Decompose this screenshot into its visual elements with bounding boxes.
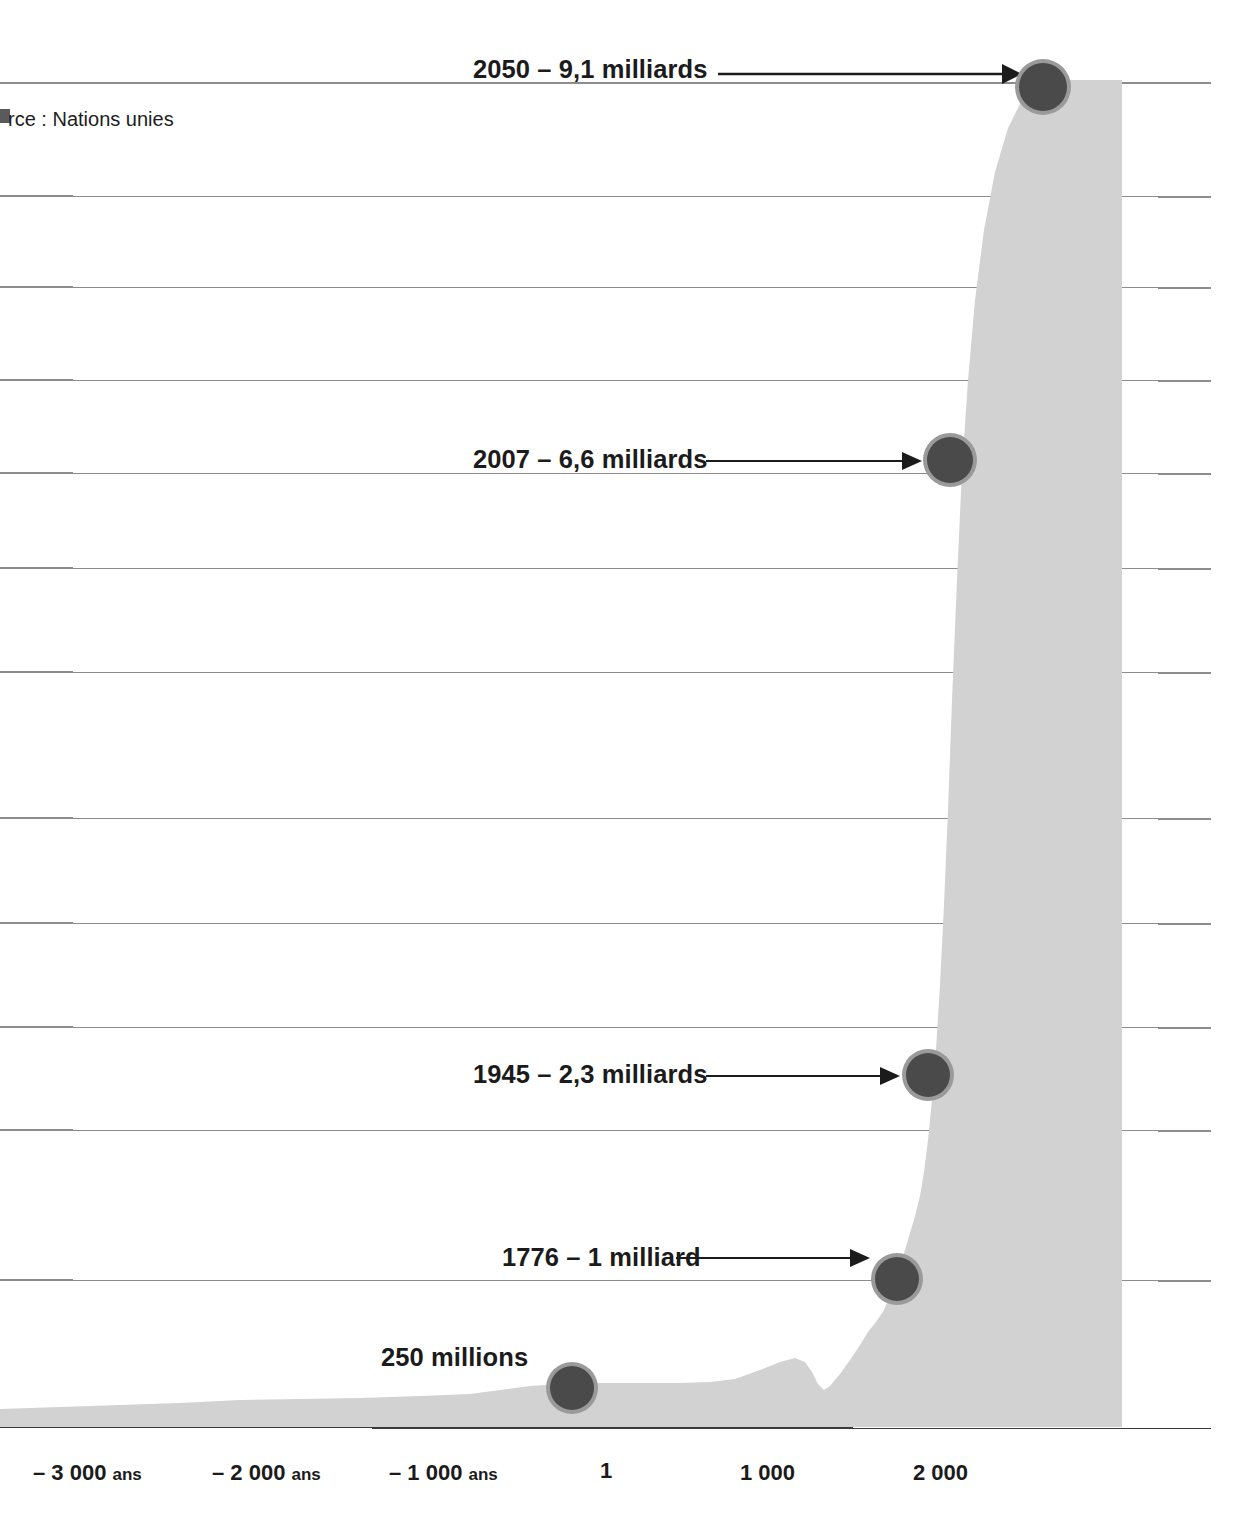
source-note: rce : Nations unies (8, 109, 174, 129)
x-tick-value: 2 000 (913, 1460, 968, 1485)
x-tick-label-minus-1000: – 1 000 ans (389, 1462, 498, 1484)
x-tick-value: – 3 000 (33, 1460, 113, 1485)
annotation-label-1945: 1945 – 2,3 milliards (473, 1062, 708, 1088)
x-tick-value: – 1 000 (389, 1460, 469, 1485)
marker-2050[interactable] (1015, 59, 1071, 115)
x-tick-value: 1 (600, 1458, 612, 1483)
annotation-label-2050: 2050 – 9,1 milliards (473, 57, 708, 83)
population-area (0, 80, 1122, 1427)
x-tick-label-year-1: 1 (600, 1460, 612, 1482)
marker-2007[interactable] (923, 433, 977, 487)
chart-canvas (0, 0, 1234, 1526)
arrow-1945 (706, 1067, 900, 1085)
marker-250-millions[interactable] (546, 1362, 598, 1414)
annotation-label-1776: 1776 – 1 milliard (502, 1245, 701, 1271)
x-tick-value: 1 000 (740, 1460, 795, 1485)
x-tick-label-minus-2000: – 2 000 ans (212, 1462, 321, 1484)
x-tick-value: – 2 000 (212, 1460, 292, 1485)
x-tick-label-minus-3000: – 3 000 ans (33, 1462, 142, 1484)
annotation-label-250-millions: 250 millions (381, 1345, 528, 1371)
x-tick-label-1000: 1 000 (740, 1462, 795, 1484)
x-tick-label-2000: 2 000 (913, 1462, 968, 1484)
x-axis-line (0, 1428, 1211, 1429)
annotation-label-2007: 2007 – 6,6 milliards (473, 447, 708, 473)
arrow-2007 (706, 452, 922, 470)
x-tick-unit: ans (469, 1465, 498, 1484)
x-tick-unit: ans (113, 1465, 142, 1484)
marker-1945[interactable] (902, 1049, 954, 1101)
arrow-1776 (676, 1249, 870, 1267)
population-growth-chart: rce : Nations unies 2050 – 9,1 milliards… (0, 0, 1234, 1526)
arrow-2050 (718, 64, 1022, 84)
x-tick-unit: ans (292, 1465, 321, 1484)
marker-1776[interactable] (871, 1253, 923, 1305)
